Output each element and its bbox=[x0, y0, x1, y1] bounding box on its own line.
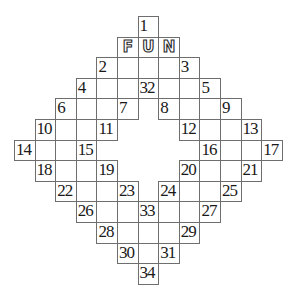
crossword-cell-5[interactable]: 5 bbox=[199, 78, 221, 100]
crossword-cell-3[interactable]: 3 bbox=[179, 57, 201, 79]
crossword-cell[interactable] bbox=[138, 222, 160, 244]
crossword-cell-1[interactable]: 1 bbox=[138, 16, 160, 38]
crossword-cell-31[interactable]: 31 bbox=[158, 243, 180, 265]
crossword-cell[interactable] bbox=[179, 78, 201, 100]
crossword-cell-20[interactable]: 20 bbox=[179, 160, 201, 182]
crossword-cell-34[interactable]: 34 bbox=[138, 263, 160, 285]
crossword-cell[interactable] bbox=[117, 57, 139, 79]
crossword-cell-33[interactable]: 33 bbox=[138, 201, 160, 223]
given-letter: N bbox=[159, 38, 179, 58]
crossword-cell[interactable] bbox=[199, 98, 221, 120]
crossword-cell[interactable] bbox=[55, 119, 77, 141]
clue-number: 7 bbox=[119, 98, 127, 118]
crossword-cell-22[interactable]: 22 bbox=[55, 181, 77, 203]
clue-number: 10 bbox=[37, 119, 52, 139]
crossword-cell[interactable] bbox=[241, 140, 263, 162]
clue-number: 14 bbox=[16, 140, 31, 160]
clue-number: 3 bbox=[181, 57, 189, 77]
crossword-cell-32[interactable]: 32 bbox=[138, 78, 160, 100]
crossword-cell[interactable] bbox=[76, 160, 98, 182]
clue-number: 23 bbox=[119, 181, 134, 201]
crossword-cell-25[interactable]: 25 bbox=[220, 181, 242, 203]
crossword-cell-6[interactable]: 6 bbox=[55, 98, 77, 120]
crossword-cell[interactable] bbox=[96, 98, 118, 120]
crossword-cell-8[interactable]: 8 bbox=[158, 98, 180, 120]
crossword-cell[interactable] bbox=[179, 98, 201, 120]
clue-number: 24 bbox=[160, 181, 175, 201]
crossword-cell[interactable] bbox=[199, 119, 221, 141]
crossword-cell[interactable] bbox=[220, 160, 242, 182]
crossword-cell[interactable] bbox=[158, 201, 180, 223]
clue-number: 33 bbox=[140, 201, 155, 221]
clue-number: 9 bbox=[222, 98, 230, 118]
crossword-cell-12[interactable]: 12 bbox=[179, 119, 201, 141]
crossword-cell-30[interactable]: 30 bbox=[117, 243, 139, 265]
crossword-cell[interactable] bbox=[158, 222, 180, 244]
clue-number: 13 bbox=[243, 119, 258, 139]
crossword-cell[interactable] bbox=[138, 243, 160, 265]
crossword-cell-18[interactable]: 18 bbox=[35, 160, 57, 182]
clue-number: 18 bbox=[37, 160, 52, 180]
crossword-cell[interactable] bbox=[179, 181, 201, 203]
crossword-cell[interactable] bbox=[158, 57, 180, 79]
clue-number: 17 bbox=[263, 140, 278, 160]
crossword-cell[interactable] bbox=[96, 181, 118, 203]
given-letter: F bbox=[118, 38, 138, 58]
crossword-cell-2[interactable]: 2 bbox=[96, 57, 118, 79]
crossword-cell-26[interactable]: 26 bbox=[76, 201, 98, 223]
crossword-cell-11[interactable]: 11 bbox=[96, 119, 118, 141]
crossword-cell-10[interactable]: 10 bbox=[35, 119, 57, 141]
given-letter: U bbox=[139, 38, 159, 58]
crossword-cell-16[interactable]: 16 bbox=[199, 140, 221, 162]
crossword-cell-27[interactable]: 27 bbox=[199, 201, 221, 223]
clue-number: 1 bbox=[140, 16, 148, 36]
crossword-cell[interactable] bbox=[35, 140, 57, 162]
crossword-cell-19[interactable]: 19 bbox=[96, 160, 118, 182]
crossword-cell-29[interactable]: 29 bbox=[179, 222, 201, 244]
crossword-cell-4[interactable]: 4 bbox=[76, 78, 98, 100]
crossword-cell[interactable] bbox=[55, 160, 77, 182]
crossword-cell-7[interactable]: 7 bbox=[117, 98, 139, 120]
clue-number: 11 bbox=[98, 119, 112, 139]
clue-number: 28 bbox=[98, 222, 113, 242]
crossword-cell-letter-u[interactable]: U bbox=[138, 37, 160, 59]
crossword-cell[interactable] bbox=[55, 140, 77, 162]
crossword-cell-letter-n[interactable]: N bbox=[158, 37, 180, 59]
crossword-cell[interactable] bbox=[199, 181, 221, 203]
crossword-cell[interactable] bbox=[76, 181, 98, 203]
clue-number: 12 bbox=[181, 119, 196, 139]
crossword-cell[interactable] bbox=[158, 78, 180, 100]
crossword-cell[interactable] bbox=[179, 201, 201, 223]
crossword-cell[interactable] bbox=[96, 201, 118, 223]
clue-number: 34 bbox=[140, 263, 155, 283]
clue-number: 31 bbox=[160, 243, 175, 263]
crossword-cell[interactable] bbox=[220, 140, 242, 162]
clue-number: 2 bbox=[98, 57, 106, 77]
crossword-cell-13[interactable]: 13 bbox=[241, 119, 263, 141]
crossword-grid: 1FUN234325678910111213141516171819202122… bbox=[14, 16, 282, 284]
clue-number: 30 bbox=[119, 243, 134, 263]
crossword-cell[interactable] bbox=[76, 119, 98, 141]
clue-number: 32 bbox=[140, 78, 155, 98]
crossword-cell-14[interactable]: 14 bbox=[14, 140, 36, 162]
clue-number: 19 bbox=[98, 160, 113, 180]
crossword-cell-9[interactable]: 9 bbox=[220, 98, 242, 120]
clue-number: 26 bbox=[78, 201, 93, 221]
crossword-cell[interactable] bbox=[96, 78, 118, 100]
clue-number: 4 bbox=[78, 78, 86, 98]
crossword-cell-28[interactable]: 28 bbox=[96, 222, 118, 244]
crossword-cell-letter-f[interactable]: F bbox=[117, 37, 139, 59]
crossword-cell[interactable] bbox=[76, 98, 98, 120]
crossword-cell[interactable] bbox=[220, 119, 242, 141]
clue-number: 16 bbox=[201, 140, 216, 160]
crossword-cell-23[interactable]: 23 bbox=[117, 181, 139, 203]
crossword-cell[interactable] bbox=[117, 222, 139, 244]
crossword-cell[interactable] bbox=[117, 201, 139, 223]
crossword-cell[interactable] bbox=[117, 78, 139, 100]
crossword-cell-15[interactable]: 15 bbox=[76, 140, 98, 162]
crossword-cell-21[interactable]: 21 bbox=[241, 160, 263, 182]
crossword-cell[interactable] bbox=[138, 57, 160, 79]
crossword-cell[interactable] bbox=[199, 160, 221, 182]
crossword-cell-24[interactable]: 24 bbox=[158, 181, 180, 203]
crossword-cell-17[interactable]: 17 bbox=[261, 140, 283, 162]
